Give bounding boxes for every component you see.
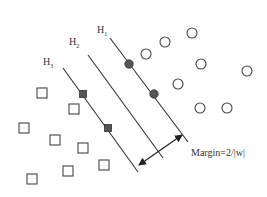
circle-point bbox=[187, 28, 197, 38]
circle-point bbox=[196, 59, 206, 69]
support-vector-circle bbox=[150, 90, 158, 98]
svm-diagram bbox=[0, 0, 267, 197]
support-vector-circle bbox=[125, 60, 133, 68]
square-point bbox=[37, 88, 47, 98]
square-point bbox=[63, 166, 73, 176]
circle-point bbox=[222, 103, 232, 113]
hyperplane-h3 bbox=[63, 68, 138, 172]
square-point bbox=[78, 143, 88, 153]
hyperplane-h2 bbox=[88, 55, 163, 158]
margin-label: Margin=2/|w| bbox=[191, 147, 245, 158]
hyperplane-label-h3: H3 bbox=[43, 56, 53, 69]
circle-point bbox=[173, 79, 183, 89]
square-point bbox=[50, 135, 60, 145]
circle-point bbox=[141, 49, 151, 59]
circle-point bbox=[242, 66, 252, 76]
class-circles bbox=[125, 28, 252, 113]
hyperplane-label-h2: H2 bbox=[69, 36, 79, 49]
support-vector-square bbox=[80, 91, 87, 98]
square-point bbox=[99, 160, 109, 170]
circle-point bbox=[195, 103, 205, 113]
square-point bbox=[69, 104, 79, 114]
margin-arrow bbox=[139, 135, 182, 165]
square-point bbox=[27, 174, 37, 184]
support-vector-square bbox=[105, 125, 112, 132]
square-point bbox=[19, 123, 29, 133]
hyperplane-label-h1: H1 bbox=[97, 24, 107, 37]
circle-point bbox=[160, 37, 170, 47]
class-squares bbox=[19, 88, 112, 184]
